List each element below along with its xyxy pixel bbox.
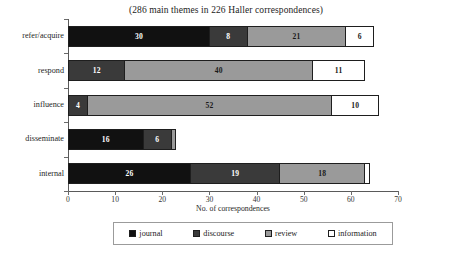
bar-segment-discourse[interactable]: 19	[190, 163, 280, 184]
category-label: internal	[39, 169, 64, 179]
bar-segment-review[interactable]: 18	[279, 163, 365, 184]
bar-segment-review[interactable]	[171, 129, 177, 150]
category-label: refer/acquire	[22, 31, 64, 41]
bar-segment-journal[interactable]: 16	[68, 129, 144, 150]
x-axis-tick-label: 70	[386, 195, 410, 204]
bar-segment-discourse[interactable]: 8	[209, 26, 248, 47]
bar-row[interactable]: 166	[68, 129, 176, 150]
legend-item-journal[interactable]: journal	[129, 229, 162, 239]
legend-label: journal	[139, 229, 162, 239]
bar-segment-discourse[interactable]: 12	[68, 60, 125, 81]
bar-row[interactable]: 45210	[68, 95, 379, 116]
bar-row[interactable]: 261918	[68, 163, 370, 184]
bar-segment-value: 16	[102, 135, 110, 144]
legend-label: information	[338, 229, 377, 239]
y-axis-tick	[64, 19, 68, 20]
x-axis-line	[68, 191, 398, 192]
bar-segment-information[interactable]: 10	[331, 95, 379, 116]
x-axis-tick-label: 10	[103, 195, 127, 204]
bar-segment-value: 10	[351, 101, 359, 110]
bar-segment-review[interactable]: 40	[124, 60, 313, 81]
legend-item-discourse[interactable]: discourse	[193, 229, 234, 239]
legend-swatch-icon	[129, 230, 136, 237]
x-axis-title: No. of correspondences	[68, 204, 398, 214]
bar-segment-value: 18	[318, 169, 326, 178]
y-axis-tick	[64, 88, 68, 89]
category-label: respond	[38, 66, 64, 76]
bar-segment-value: 21	[292, 32, 300, 41]
bar-segment-discourse[interactable]: 4	[68, 95, 88, 116]
x-axis-tick-label: 40	[245, 195, 269, 204]
bar-segment-information[interactable]	[364, 163, 370, 184]
bar-segment-value: 30	[135, 32, 143, 41]
bar-segment-review[interactable]: 52	[87, 95, 332, 116]
y-axis-tick	[64, 53, 68, 54]
bar-segment-journal[interactable]: 26	[68, 163, 191, 184]
legend-label: discourse	[203, 229, 234, 239]
bar-segment-value: 26	[126, 169, 134, 178]
y-axis-tick	[64, 157, 68, 158]
bar-segment-value: 11	[335, 66, 343, 75]
bar-segment-value: 40	[215, 66, 223, 75]
legend-item-information[interactable]: information	[328, 229, 377, 239]
bar-segment-value: 4	[76, 101, 80, 110]
bar-segment-value: 19	[231, 169, 239, 178]
x-axis-tick-label: 50	[292, 195, 316, 204]
legend-swatch-icon	[328, 230, 335, 237]
y-axis-tick	[64, 122, 68, 123]
bar-segment-value: 6	[358, 32, 362, 41]
chart-title: (286 main themes in 226 Haller correspon…	[0, 4, 452, 16]
bar-segment-value: 52	[205, 101, 213, 110]
bar-row[interactable]: 124011	[68, 60, 365, 81]
bar-segment-review[interactable]: 21	[247, 26, 347, 47]
bar-segment-discourse[interactable]: 6	[143, 129, 172, 150]
bar-segment-journal[interactable]: 30	[68, 26, 210, 47]
x-axis-tick-label: 0	[56, 195, 80, 204]
bar-segment-information[interactable]: 6	[345, 26, 374, 47]
legend-item-review[interactable]: review	[265, 229, 297, 239]
legend-swatch-icon	[265, 230, 272, 237]
category-label: disseminate	[25, 134, 64, 144]
bar-row[interactable]: 308216	[68, 26, 374, 47]
bar-segment-value: 6	[155, 135, 159, 144]
category-label: influence	[34, 100, 64, 110]
chart-legend: journaldiscoursereviewinformation	[113, 222, 393, 245]
legend-swatch-icon	[193, 230, 200, 237]
x-axis-tick-label: 30	[197, 195, 221, 204]
stacked-bar-chart-figure: (286 main themes in 226 Haller correspon…	[0, 0, 452, 263]
bar-segment-information[interactable]: 11	[312, 60, 365, 81]
bar-segment-value: 8	[226, 32, 230, 41]
legend-label: review	[275, 229, 297, 239]
x-axis-tick-label: 60	[339, 195, 363, 204]
bar-segment-value: 12	[93, 66, 101, 75]
x-axis-tick-label: 20	[150, 195, 174, 204]
